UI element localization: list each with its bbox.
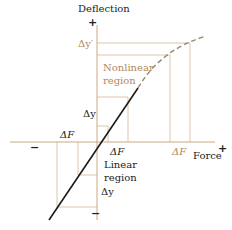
delta-y-lower-label: Δy <box>101 186 114 197</box>
linear-region-line1: Linear <box>104 159 137 170</box>
deflection-axis-label: Deflection <box>78 3 130 14</box>
nonlinear-region-line2: region <box>103 75 136 86</box>
delta-f-left-label: ΔF <box>60 129 74 140</box>
nonlinear-region-line1: Nonlinear <box>103 62 154 73</box>
delta-f-right-label: ΔF <box>172 146 186 157</box>
x-plus-sign: + <box>218 143 227 154</box>
y-plus-sign: + <box>88 17 97 28</box>
linear-region-line2: region <box>104 172 137 183</box>
delta-y-upper-label: Δy <box>83 108 96 119</box>
delta-y-prime-label: Δy′ <box>78 38 93 49</box>
force-deflection-diagram: Deflection + Δy′ Nonlinear region Δy ΔF … <box>0 0 232 230</box>
diagram-canvas <box>0 0 232 230</box>
delta-f-center-label: ΔF <box>110 146 124 157</box>
y-minus-sign: − <box>91 208 100 219</box>
x-minus-sign: − <box>30 142 39 153</box>
